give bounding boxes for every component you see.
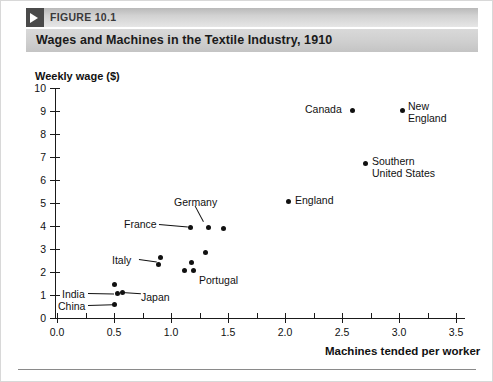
x-axis-line [55, 318, 465, 319]
data-point-unlabeled-f[interactable] [221, 226, 226, 231]
point-label-new-england-line1: New [408, 100, 429, 112]
y-tick-8 [50, 134, 60, 135]
data-point-unlabeled-d[interactable] [189, 260, 194, 265]
y-tick-label-0: 0 [28, 312, 46, 324]
data-point-unlabeled-a[interactable] [112, 282, 117, 287]
y-tick-label-6: 6 [28, 174, 46, 186]
point-label-france: France [124, 218, 157, 230]
x-minor-tick-3 [257, 313, 258, 318]
x-tick-label-6: 3.0 [384, 326, 414, 338]
x-minor-tick-4 [314, 313, 315, 318]
point-label-canada: Canada [305, 103, 342, 115]
y-tick-label-8: 8 [28, 128, 46, 140]
point-label-japan: Japan [141, 291, 170, 303]
y-axis-title: Weekly wage ($) [35, 70, 120, 82]
point-label-southern-line2: United States [372, 167, 435, 179]
leader-line-japan [122, 292, 141, 294]
scatter-plot: Weekly wage ($) 10 9 8 7 6 5 4 3 2 1 0 0… [0, 0, 493, 382]
leader-line-italy [139, 259, 157, 262]
x-tick-label-7: 3.5 [441, 326, 471, 338]
y-tick-10 [50, 88, 60, 89]
y-tick-label-3: 3 [28, 243, 46, 255]
data-point-unlabeled-b[interactable] [158, 255, 163, 260]
data-point-portugal[interactable] [182, 268, 187, 273]
y-tick-label-4: 4 [28, 220, 46, 232]
x-tick-label-2: 1.0 [156, 326, 186, 338]
x-minor-tick-0 [86, 313, 87, 318]
x-tick-4 [285, 313, 286, 323]
x-tick-label-5: 2.5 [327, 326, 357, 338]
x-minor-tick-2 [200, 313, 201, 318]
point-label-italy: Italy [112, 254, 131, 266]
data-point-france[interactable] [188, 225, 193, 230]
point-label-china: China [58, 300, 85, 312]
data-point-unlabeled-c[interactable] [191, 268, 196, 273]
point-label-india: India [62, 288, 85, 300]
y-tick-5 [50, 203, 60, 204]
x-tick-label-4: 2.0 [270, 326, 300, 338]
data-point-england[interactable] [286, 199, 291, 204]
data-point-new-england[interactable] [400, 108, 405, 113]
x-minor-tick-6 [428, 313, 429, 318]
x-tick-label-0: 0.0 [42, 326, 72, 338]
y-tick-label-9: 9 [28, 105, 46, 117]
x-tick-label-3: 1.5 [213, 326, 243, 338]
y-tick-7 [50, 157, 60, 158]
y-tick-label-1: 1 [28, 289, 46, 301]
x-tick-7 [456, 313, 457, 323]
y-tick-6 [50, 180, 60, 181]
x-minor-tick-1 [143, 313, 144, 318]
y-tick-0 [50, 318, 60, 319]
y-tick-9 [50, 111, 60, 112]
y-tick-4 [50, 226, 60, 227]
x-tick-3 [228, 313, 229, 323]
data-point-unlabeled-e[interactable] [203, 250, 208, 255]
y-tick-label-10: 10 [28, 82, 46, 94]
leader-line-india [88, 293, 114, 294]
leader-line-germany [195, 206, 204, 222]
x-tick-2 [171, 313, 172, 323]
y-tick-2 [50, 272, 60, 273]
bottom-divider [18, 369, 476, 370]
point-label-england: England [295, 194, 334, 206]
x-minor-tick-5 [371, 313, 372, 318]
x-tick-1 [114, 313, 115, 323]
data-point-southern-united-states[interactable] [363, 161, 368, 166]
figure-container: FIGURE 10.1 Wages and Machines in the Te… [0, 0, 493, 382]
data-point-germany[interactable] [206, 225, 211, 230]
y-tick-label-5: 5 [28, 197, 46, 209]
point-label-new-england-line2: England [408, 112, 447, 124]
x-tick-5 [342, 313, 343, 323]
y-tick-1 [50, 295, 60, 296]
leader-line-china [88, 304, 113, 306]
y-tick-label-7: 7 [28, 151, 46, 163]
x-axis-title: Machines tended per worker [325, 345, 480, 357]
leader-line-france [159, 224, 188, 228]
y-tick-label-2: 2 [28, 266, 46, 278]
x-tick-6 [399, 313, 400, 323]
x-tick-0 [57, 313, 58, 323]
point-label-portugal: Portugal [199, 274, 238, 286]
y-tick-3 [50, 249, 60, 250]
point-label-southern-line1: Southern [372, 155, 415, 167]
data-point-canada[interactable] [350, 108, 355, 113]
x-tick-label-1: 0.5 [99, 326, 129, 338]
